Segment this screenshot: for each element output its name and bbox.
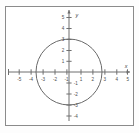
x-tick-label-neg4: -4 <box>29 77 34 82</box>
y-axis-arrow-icon <box>67 10 70 14</box>
y-tick-label-neg4: -4 <box>74 114 79 119</box>
y-tick-label-neg1: -1 <box>74 81 79 86</box>
x-axis-label: x <box>124 63 128 69</box>
x-tick-label-pos2: 2 <box>92 77 95 82</box>
y-tick-label-pos5: 5 <box>62 15 65 20</box>
y-tick-label-pos4: 4 <box>62 26 65 31</box>
y-tick-label-pos3: 3 <box>62 37 65 42</box>
x-tick-label-neg1: -1 <box>65 77 70 82</box>
y-tick-label-neg3: -3 <box>74 103 79 108</box>
x-tick-label-pos5: 5 <box>127 77 130 82</box>
coordinate-plane: -5 -4 -3 -2 -1 1 2 3 4 5 5 4 3 2 1 -1 -2… <box>6 7 133 125</box>
y-axis-label: y <box>75 12 79 18</box>
y-tick-label-neg2: -2 <box>74 92 79 97</box>
x-tick-label-pos4: 4 <box>116 77 119 82</box>
x-tick-label-neg5: -5 <box>17 77 22 82</box>
y-tick-label-pos1: 1 <box>62 59 65 64</box>
x-tick-label-pos3: 3 <box>104 77 107 82</box>
x-tick-label-pos1: 1 <box>80 77 83 82</box>
x-tick-label-neg3: -3 <box>41 77 46 82</box>
graph-figure: -5 -4 -3 -2 -1 1 2 3 4 5 5 4 3 2 1 -1 -2… <box>0 0 139 133</box>
x-tick-label-neg2: -2 <box>53 77 58 82</box>
plot-frame: -5 -4 -3 -2 -1 1 2 3 4 5 5 4 3 2 1 -1 -2… <box>5 6 134 126</box>
y-tick-label-pos2: 2 <box>62 48 65 53</box>
